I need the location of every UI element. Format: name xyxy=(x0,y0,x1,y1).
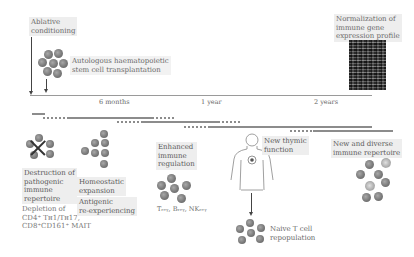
diverse-cell-icon xyxy=(374,170,383,179)
reg-cell-icon xyxy=(167,174,176,183)
normalization-label: Normalization of immune gene expression … xyxy=(334,14,402,42)
tick-6-months: 6 months xyxy=(99,98,130,106)
naive-t-cell-icon xyxy=(257,224,265,232)
ablative-line-1: Ablative xyxy=(31,18,75,27)
ablative-line-2: conditioning xyxy=(31,27,75,36)
thymic-label: New thymic function xyxy=(262,136,309,155)
regulation-line-1: Enhanced xyxy=(158,143,195,152)
cell-icon xyxy=(46,150,54,158)
phase-diverse-bar xyxy=(313,130,393,132)
phase-diverse-onset xyxy=(290,130,313,132)
phase-thymic-bar xyxy=(208,126,372,128)
hsc-cell-icon xyxy=(43,67,52,76)
diverse-cell-icon xyxy=(381,178,390,187)
tick-1-year: 1 year xyxy=(201,98,222,106)
diverse-label: New and diverse immune repertoire xyxy=(331,139,402,158)
hsc-cell-icon xyxy=(59,59,68,68)
diverse-cell-spiky-icon xyxy=(381,158,391,168)
cell-icon xyxy=(91,139,99,147)
regulation-label: Enhanced immune regulation xyxy=(156,142,197,170)
phase-homeostatic-tail xyxy=(152,117,176,119)
phase-homeostatic-bar xyxy=(67,117,152,119)
ahsct-line-1: Autologous haematopoietic xyxy=(72,57,169,66)
diverse-cell-icon xyxy=(362,193,371,202)
naive-t-cell-icon xyxy=(256,235,264,243)
hsc-cell-icon xyxy=(54,49,63,58)
ablative-conditioning-label: Ablative conditioning xyxy=(29,17,77,36)
hsc-cell-icon xyxy=(38,58,47,67)
phase-regulation-bar xyxy=(142,121,218,123)
naive-t-cell-icon xyxy=(238,236,246,244)
thymic-line-1: New thymic xyxy=(264,137,307,146)
naive-line-2: repopulation xyxy=(270,234,315,243)
regulation-line-3: regulation xyxy=(158,160,195,169)
normalization-line-1: Normalization of xyxy=(336,15,400,24)
ahsct-line-2: stem cell transplantation xyxy=(72,66,169,75)
cell-icon xyxy=(35,134,43,142)
reg-cell-icon xyxy=(177,194,186,203)
timeline-axis xyxy=(30,95,372,96)
hsc-cell-icon xyxy=(44,50,53,59)
destruction-line-2: pathogenic xyxy=(24,178,75,187)
phase-thymic-onset xyxy=(184,126,208,128)
gene-expression-heatmap xyxy=(349,40,386,90)
homeostatic-line-1: Homeostatic xyxy=(79,178,124,187)
cell-icon xyxy=(100,160,108,168)
antigenic-line-1: Antigenic xyxy=(79,198,135,207)
destruction-label: Destruction of pathogenic immune reperto… xyxy=(22,168,77,204)
diverse-line-2: immune repertoire xyxy=(333,149,400,158)
reg-cell-icon xyxy=(160,191,169,200)
regulation-line-2: immune xyxy=(158,152,195,161)
naive-t-label: Naive T cell repopulation xyxy=(270,225,315,242)
antigenic-label: Antigenic re-experiencing xyxy=(77,197,137,216)
naive-t-cell-icon xyxy=(247,229,255,237)
phase-destruction-bar xyxy=(32,113,45,115)
diverse-line-1: New and diverse xyxy=(333,140,400,149)
normalization-line-2: immune gene xyxy=(336,24,400,33)
thymic-arrow-icon xyxy=(251,193,252,213)
hsc-cell-icon xyxy=(49,59,58,68)
destruction-line-3: immune xyxy=(24,186,75,195)
ahsct-arrow-icon xyxy=(46,79,47,90)
ahsct-label: Autologous haematopoietic stem cell tran… xyxy=(70,56,171,75)
diverse-cell-icon xyxy=(365,160,374,169)
thymic-line-2: function xyxy=(264,146,307,155)
naive-t-cell-icon xyxy=(236,225,244,233)
naive-line-1: Naive T cell xyxy=(270,225,315,234)
diverse-cell-spiky-icon xyxy=(365,181,375,191)
regulatory-cells-label: Tᵣₑᵧ, Bᵣₑᵧ, NKᵣₑᵧ xyxy=(157,205,207,214)
phase-homeostatic-onset xyxy=(43,117,67,119)
diverse-cell-icon xyxy=(374,192,383,201)
hsc-cell-icon xyxy=(53,69,62,78)
reg-cell-icon xyxy=(157,181,166,190)
tick-2-years: 2 years xyxy=(314,98,338,106)
phase-regulation-onset xyxy=(117,121,142,123)
reg-cell-icon xyxy=(182,181,191,190)
destruction-line-1: Destruction of xyxy=(24,169,75,178)
antigenic-line-2: re-experiencing xyxy=(79,207,135,216)
ablative-arrow-icon xyxy=(31,37,32,92)
cell-icon xyxy=(101,139,109,147)
homeostatic-line-2: expansion xyxy=(79,187,124,196)
cell-icon xyxy=(101,149,109,157)
depletion-line-3: CD8⁺CD161⁺ MAIT xyxy=(22,222,91,231)
cell-icon xyxy=(100,130,108,138)
destruction-line-4: repertoire xyxy=(24,195,75,204)
phase-regulation-tail xyxy=(218,121,241,123)
diverse-cell-icon xyxy=(356,170,365,179)
cell-icon xyxy=(91,149,99,157)
naive-t-cell-icon xyxy=(246,219,254,227)
cell-icon xyxy=(46,140,54,148)
cell-icon xyxy=(81,147,89,155)
homeostatic-label: Homeostatic expansion xyxy=(77,177,126,196)
reg-cell-icon xyxy=(170,184,179,193)
